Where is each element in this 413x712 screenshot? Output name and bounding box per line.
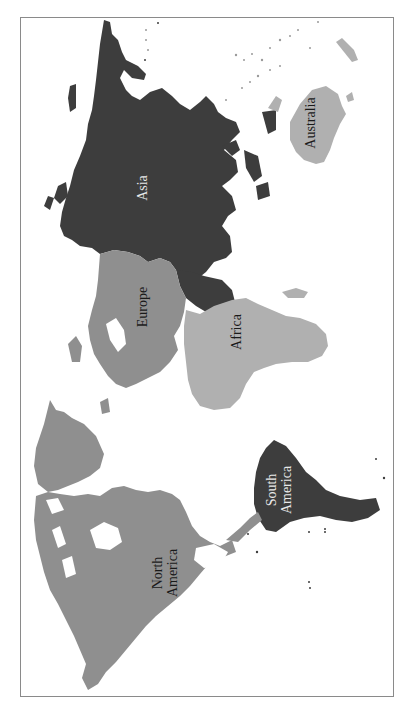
pacific-islands [145,21,319,101]
island-asia-2 [44,196,54,210]
central-america [226,512,262,542]
label-south-america-line1: South [265,466,280,514]
island-se-asia-3 [262,110,276,134]
world-map [0,0,413,712]
island-new-zealand [336,38,358,62]
island-tasmania [346,92,354,102]
label-europe: Europe [136,287,151,327]
island-madagascar [282,288,308,298]
island-asia-3 [68,84,76,112]
label-africa: Africa [230,314,245,350]
label-north-america: North America [151,549,180,597]
label-australia: Australia [304,97,319,148]
continent-africa[interactable] [184,298,328,410]
continent-north-america[interactable] [34,486,236,690]
island-new-guinea [268,96,282,112]
label-south-america-line2: America [280,466,295,514]
label-south-america: South America [265,466,294,514]
island-se-asia-2 [244,150,262,182]
label-asia: Asia [136,175,151,201]
continent-asia[interactable] [60,20,240,280]
island-britain [68,336,82,362]
island-se-asia-4 [256,182,270,200]
label-north-america-line2: America [166,549,181,597]
label-north-america-line1: North [151,549,166,597]
island-greenland [34,400,104,492]
island-iceland [100,398,110,414]
